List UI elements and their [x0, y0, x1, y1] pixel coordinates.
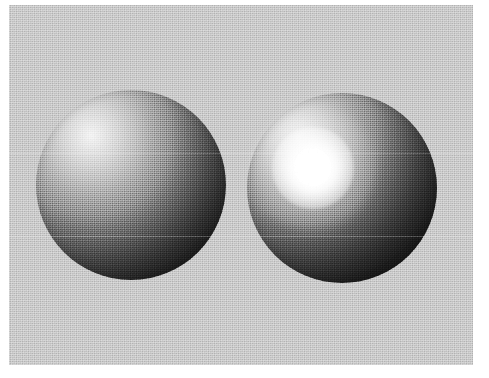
scanned-image-panel	[9, 5, 473, 365]
diffuse-sphere	[36, 90, 226, 280]
figure-root	[0, 0, 489, 378]
specular-sphere	[247, 93, 437, 283]
